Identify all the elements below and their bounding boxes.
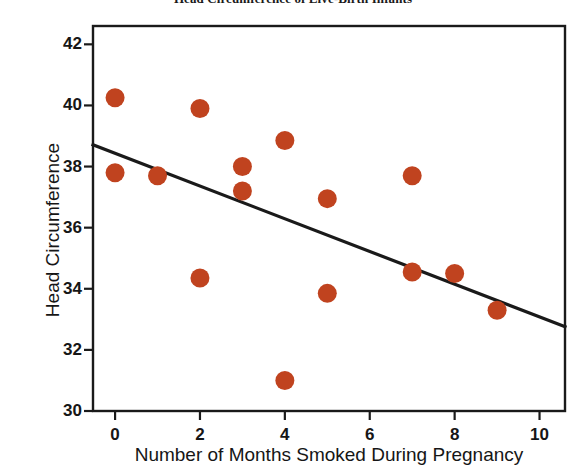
axes-frame: [93, 26, 565, 411]
data-point: [190, 99, 209, 118]
x-tick-label-8: 8: [450, 425, 459, 445]
chart-figure: Head Circumference of Live-Birth Infants…: [0, 0, 586, 476]
y-tick-label-30: 30: [40, 401, 82, 421]
data-point: [275, 131, 294, 150]
data-point: [190, 269, 209, 288]
x-axis-title: Number of Months Smoked During Pregnancy: [93, 444, 565, 466]
axis-ticks: [84, 44, 540, 420]
data-point: [233, 157, 252, 176]
data-point: [106, 163, 125, 182]
data-point: [403, 262, 422, 281]
data-point: [403, 166, 422, 185]
data-point: [318, 284, 337, 303]
x-tick-label-6: 6: [365, 425, 374, 445]
x-tick-label-0: 0: [110, 425, 119, 445]
data-point: [148, 166, 167, 185]
data-point: [233, 182, 252, 201]
scatter-plot-canvas: [0, 0, 586, 476]
x-tick-label-10: 10: [530, 425, 549, 445]
data-point: [318, 189, 337, 208]
y-axis-title: Head Circumference: [42, 80, 64, 380]
x-tick-label-4: 4: [280, 425, 289, 445]
y-tick-label-42: 42: [40, 34, 82, 54]
x-tick-label-2: 2: [195, 425, 204, 445]
data-point: [445, 264, 464, 283]
data-point: [106, 88, 125, 107]
data-points: [106, 88, 507, 390]
data-point: [275, 371, 294, 390]
data-point: [488, 301, 507, 320]
